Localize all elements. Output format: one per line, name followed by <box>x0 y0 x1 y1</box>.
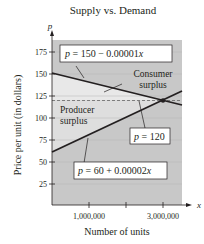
producer-surplus-label-2: surplus <box>60 116 88 126</box>
consumer-surplus-label-2: surplus <box>139 80 167 90</box>
x-tick-label-3000000: 3,000,000 <box>147 212 179 221</box>
svg-text:25: 25 <box>39 180 47 189</box>
supply-equation: p = 60 + 0.00002x <box>77 165 152 176</box>
svg-text:150: 150 <box>35 70 47 79</box>
svg-text:50: 50 <box>39 158 47 167</box>
producer-surplus-label-1: Producer <box>60 105 95 115</box>
svg-text:175: 175 <box>35 48 47 57</box>
chart-title: Supply vs. Demand <box>70 4 157 16</box>
y-tick-labels: 175 150 125 100 75 50 25 <box>35 48 47 189</box>
x-tick-label-1000000: 1,000,000 <box>73 212 105 221</box>
eq-price-equation: p = 120 <box>133 131 165 142</box>
consumer-surplus-label-1: Consumer <box>133 69 173 79</box>
svg-text:125: 125 <box>35 92 47 101</box>
y-axis-title: Price per unit (in dollars) <box>12 75 24 176</box>
y-axis-symbol: p <box>47 21 53 31</box>
equilibrium-point <box>161 98 165 102</box>
svg-text:100: 100 <box>35 114 47 123</box>
supply-demand-chart: Supply vs. Demand p x 175 150 <box>0 0 204 244</box>
x-axis-symbol: x <box>196 200 201 210</box>
demand-equation: p = 150 − 0.00001x <box>64 48 144 59</box>
x-axis-title: Number of units <box>84 226 150 237</box>
svg-text:75: 75 <box>39 136 47 145</box>
x-axis-arrow-icon <box>186 203 192 207</box>
